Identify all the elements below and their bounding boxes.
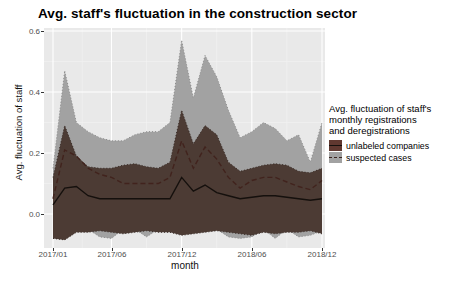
legend-item-suspected-cases: suspected cases bbox=[329, 152, 457, 163]
x-tick-label: 2018/12 bbox=[308, 250, 337, 259]
legend-item-label: suspected cases bbox=[346, 153, 412, 163]
x-axis-title: month bbox=[140, 260, 230, 271]
y-tick-mark bbox=[41, 31, 44, 32]
y-axis-title: Avg. fluctuation of staff bbox=[13, 78, 24, 188]
x-tick-label: 2017/01 bbox=[39, 250, 68, 259]
x-tick-label: 2017/06 bbox=[98, 250, 127, 259]
x-tick-label: 2018/06 bbox=[238, 250, 267, 259]
y-tick-mark bbox=[41, 214, 44, 215]
plot-panel bbox=[44, 28, 325, 248]
page-title: Avg. staff's fluctuation in the construc… bbox=[38, 6, 357, 21]
legend-title-line: monthly registrations bbox=[329, 114, 457, 125]
x-tick-mark bbox=[112, 248, 113, 251]
legend-item-label: unlabeled companies bbox=[346, 141, 429, 151]
chart-figure: Avg. staff's fluctuation in the construc… bbox=[0, 0, 459, 282]
y-tick-mark bbox=[41, 153, 44, 154]
legend-key-unlabeled-swatch bbox=[329, 140, 342, 151]
y-tick-mark bbox=[41, 92, 44, 93]
legend-key-suspected-swatch bbox=[329, 152, 342, 163]
legend-title-line: Avg. fluctuation of staff's bbox=[329, 103, 457, 114]
x-tick-mark bbox=[182, 248, 183, 251]
legend: Avg. fluctuation of staff's monthly regi… bbox=[329, 103, 457, 164]
plot-area-svg bbox=[44, 28, 325, 248]
legend-key-solid-line bbox=[329, 145, 342, 146]
legend-title: Avg. fluctuation of staff's monthly regi… bbox=[329, 103, 457, 136]
x-tick-mark bbox=[322, 248, 323, 251]
y-tick-label: 0.0 bbox=[18, 210, 40, 219]
legend-key-dashed-line bbox=[329, 157, 342, 158]
legend-title-line: and deregistrations bbox=[329, 125, 457, 136]
x-tick-mark bbox=[53, 248, 54, 251]
x-tick-label: 2017/12 bbox=[168, 250, 197, 259]
legend-item-unlabeled-companies: unlabeled companies bbox=[329, 140, 457, 151]
y-tick-label: 0.6 bbox=[18, 27, 40, 36]
x-tick-mark bbox=[252, 248, 253, 251]
